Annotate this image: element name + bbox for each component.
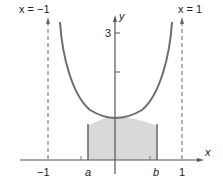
y-tick-label-3: 3 [105,27,111,39]
asymptote-right-arrow-icon [180,17,184,24]
y-axis-label: y [118,10,126,22]
x-tick-label-b: b [153,166,159,178]
x-axis-label: x [204,146,211,158]
shaded-area [88,117,157,160]
function-curve [60,22,172,118]
y-axis-arrow-icon [113,15,117,22]
x-axis-arrow-icon [197,158,204,162]
x-tick-label-a: a [85,166,91,178]
x-tick-label-neg1: −1 [37,166,50,178]
asymptote-left-label: x = −1 [19,3,50,15]
asymptote-left-arrow-icon [46,17,50,24]
integral-diagram: x = −1 x = 1 y x 3 −1 a b 1 [0,0,223,188]
x-tick-label-1: 1 [179,166,185,178]
asymptote-right-label: x = 1 [178,3,202,15]
